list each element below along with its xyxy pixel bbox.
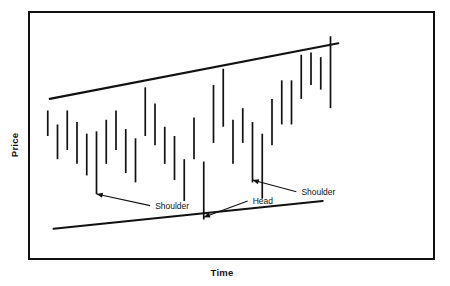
annotation-label: Shoulder [155, 201, 189, 211]
price-chart-svg: ShoulderHeadShoulder Price Time [0, 0, 450, 286]
x-axis-title: Time [211, 267, 234, 278]
plot-area-frame [29, 12, 434, 259]
annotation-label: Shoulder [301, 187, 335, 197]
chart-figure: ShoulderHeadShoulder Price Time [0, 0, 450, 286]
y-axis-title: Price [9, 133, 20, 157]
annotation-label: Head [253, 196, 274, 206]
